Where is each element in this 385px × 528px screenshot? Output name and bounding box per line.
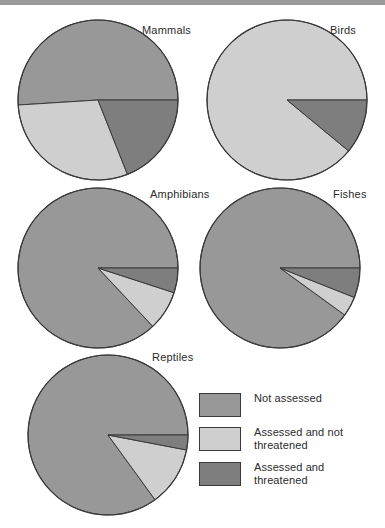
legend-item-assessed-not-threatened: Assessed and not threatened — [199, 426, 379, 452]
legend-swatch-assessed-threatened — [199, 462, 241, 486]
pie-title-mammals: Mammals — [142, 24, 191, 36]
legend-label-assessed-threatened: Assessed and threatened — [254, 461, 379, 487]
legend-label-not-assessed: Not assessed — [254, 392, 322, 405]
pie-title-fishes: Fishes — [333, 188, 367, 200]
legend-swatch-assessed-not-threatened — [199, 427, 241, 451]
pie-birds — [207, 20, 367, 180]
pie-title-reptiles: Reptiles — [152, 351, 193, 363]
pie-title-birds: Birds — [330, 24, 356, 36]
legend-label-assessed-not-threatened: Assessed and not threatened — [254, 426, 379, 452]
pie-amphibians — [18, 188, 178, 348]
pie-title-amphibians: Amphibians — [150, 188, 209, 200]
legend-item-assessed-threatened: Assessed and threatened — [199, 461, 379, 487]
legend-swatch-not-assessed — [199, 393, 241, 417]
figure-canvas: Mammals Birds Amphibians Fishes Reptiles… — [0, 0, 385, 528]
pie-reptiles — [28, 355, 188, 515]
legend: Not assessed Assessed and not threatened… — [199, 392, 379, 496]
pie-mammals — [18, 20, 178, 180]
pie-fishes — [200, 188, 360, 348]
legend-item-not-assessed: Not assessed — [199, 392, 379, 417]
